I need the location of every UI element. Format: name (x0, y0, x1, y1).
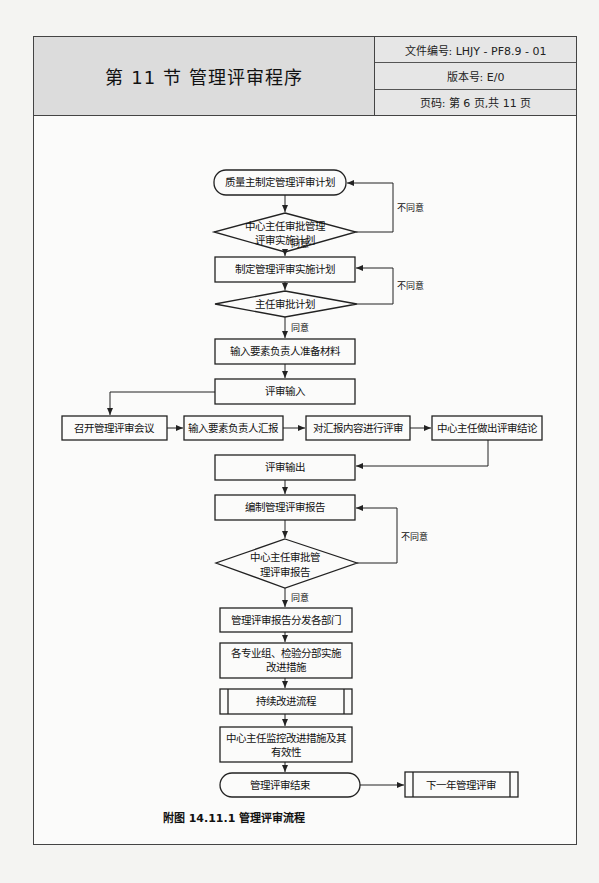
node-implement-label-1: 各专业组、检验分部实施 (231, 647, 342, 659)
node-approve-report-label-2: 理评审报告 (260, 566, 310, 578)
disagree-label-1: 不同意 (397, 202, 424, 213)
node-monitor-label-2: 有效性 (271, 746, 301, 758)
node-hold-meeting-label: 召开管理评审会议 (74, 422, 155, 434)
decision-approve-report (216, 539, 357, 588)
node-monitor-label-1: 中心主任监控改进措施及其 (226, 732, 346, 744)
node-make-plan-label: 制定管理评审实施计划 (235, 263, 335, 275)
agree-label-3: 同意 (291, 592, 309, 603)
agree-label-2: 同意 (291, 322, 309, 333)
node-prepare-materials-label: 输入要素负责人准备材料 (230, 345, 341, 357)
node-report-label: 输入要素负责人汇报 (188, 422, 279, 434)
agree-label-1: 同意 (291, 238, 309, 249)
node-review-input-label: 评审输入 (265, 385, 306, 397)
node-approve-plan-label-1: 中心主任审批管理 (245, 220, 326, 232)
disagree-label-3: 不同意 (401, 531, 428, 542)
flowchart: 质量主制定管理评审计划 中心主任审批管理 评审实施计划 制定管理评审实施计划 主… (0, 0, 599, 883)
node-implement-label-2: 改进措施 (266, 661, 307, 673)
disagree-label-2: 不同意 (397, 280, 424, 291)
figure-caption: 附图 14.11.1 管理评审流程 (163, 811, 305, 825)
node-start-label: 质量主制定管理评审计划 (225, 176, 335, 188)
node-review-output-label: 评审输出 (265, 461, 305, 473)
node-approve-report-label-1: 中心主任审批管 (250, 551, 320, 563)
decision-approve-plan (214, 213, 356, 252)
node-review-report-label: 对汇报内容进行评审 (313, 422, 403, 434)
node-distribute-label: 管理评审报告分发各部门 (231, 614, 341, 626)
node-director-approve-label: 主任审批计划 (255, 298, 315, 310)
node-conclusion-label: 中心主任做出评审结论 (437, 422, 538, 434)
node-end-label: 管理评审结束 (250, 779, 311, 791)
node-continual-label: 持续改进流程 (256, 695, 317, 707)
node-compile-report-label: 编制管理评审报告 (245, 501, 325, 513)
node-next-year-label: 下一年管理评审 (426, 779, 496, 791)
